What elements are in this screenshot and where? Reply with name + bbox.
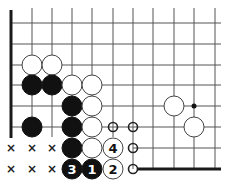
- black-stone: [42, 75, 62, 95]
- black-stone-3: 3: [62, 159, 82, 179]
- white-stone: [82, 75, 102, 95]
- x-mark-icon: ×: [6, 141, 16, 155]
- white-stone: [82, 96, 102, 116]
- x-marks: ××××××: [6, 141, 57, 176]
- x-mark-icon: ×: [47, 141, 57, 155]
- go-board-diagram: ×××××× 4312: [0, 0, 233, 182]
- star-point: [192, 104, 197, 109]
- black-stone-1: 1: [82, 159, 102, 179]
- white-stone-2: 2: [103, 159, 123, 179]
- white-stone: [82, 117, 102, 137]
- x-mark-icon: ×: [27, 141, 37, 155]
- x-mark-icon: ×: [6, 162, 16, 176]
- move-number-label: 2: [108, 162, 117, 177]
- black-stone: [62, 138, 82, 158]
- move-number-label: 1: [87, 162, 96, 177]
- x-mark-icon: ×: [27, 162, 37, 176]
- black-stone: [22, 117, 42, 137]
- move-number-label: 4: [108, 141, 117, 156]
- move-number-label: 3: [67, 162, 76, 177]
- x-mark-icon: ×: [47, 162, 57, 176]
- white-stone: [82, 138, 102, 158]
- white-stone: [42, 55, 62, 75]
- star-points: [192, 104, 197, 109]
- black-stone: [62, 96, 82, 116]
- white-stone-4: 4: [103, 138, 123, 158]
- white-stone: [62, 75, 82, 95]
- white-stone: [22, 55, 42, 75]
- white-stone: [184, 117, 204, 137]
- white-stone: [164, 96, 184, 116]
- black-stone: [62, 117, 82, 137]
- black-stone: [22, 75, 42, 95]
